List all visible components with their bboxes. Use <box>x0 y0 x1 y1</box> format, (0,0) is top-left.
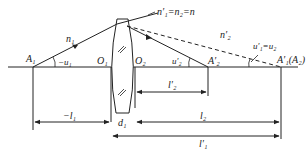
diagram-canvas <box>0 0 308 155</box>
label-o2: O₂ <box>135 56 146 66</box>
label-l1p: l′₁ <box>199 139 207 149</box>
thick-lens <box>112 19 134 113</box>
label-n2p: n′₂ <box>220 30 231 40</box>
label-n1: n₁ <box>66 34 74 44</box>
label-a1: A₁ <box>26 54 36 64</box>
label-u2p: u′₂ <box>172 57 182 66</box>
label-a2p: A′₂ <box>208 56 220 66</box>
label-minus-l1: −l₁ <box>63 111 76 121</box>
angle-arc-u1p <box>249 59 250 67</box>
label-l2p: l′₂ <box>168 80 176 90</box>
label-o1: O₁ <box>97 56 108 66</box>
ray-arrow-icon <box>146 34 152 40</box>
angle-arc-u2p <box>189 58 190 67</box>
label-l2: l₂ <box>200 111 206 121</box>
label-d1: d₁ <box>118 118 126 128</box>
angle-arc-u1 <box>53 57 55 67</box>
label-u1p-equation: u′₁=u₂ <box>253 42 276 51</box>
thick-lens-diagram: A₁ n₁ −u₁ O₁ O₂ n′₁=n₂=n n′₂ u′₂ A′₂ u′₁… <box>0 0 308 155</box>
label-a1p-a2: A′₁(A₂) <box>277 55 305 65</box>
label-index-equation: n′₁=n₂=n <box>157 7 195 17</box>
label-minus-u1: −u₁ <box>58 58 72 67</box>
